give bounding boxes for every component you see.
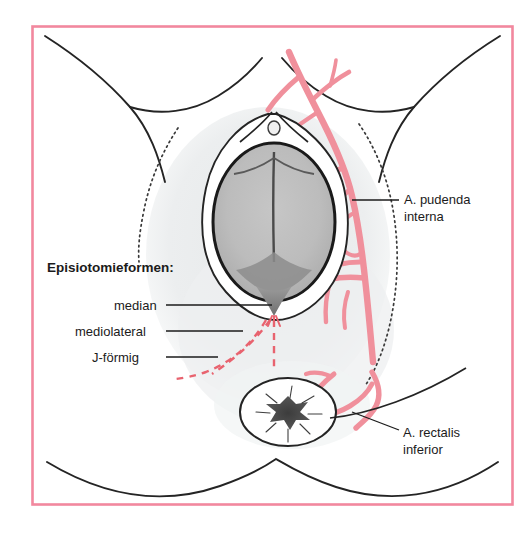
thigh-outline-right [379,36,500,182]
label-a-pudenda-interna-line2: interna [404,208,471,225]
episiotomy-heading: Episiotomieformen: [47,260,174,276]
sagittal-suture [273,152,274,262]
label-a-pudenda-interna: A. pudenda interna [404,191,471,225]
artery-branch-upper-1 [268,76,300,110]
label-episiotomy-j-foermig: J-förmig [92,350,139,366]
figure-root: Episiotomieformen: median mediolateral J… [0,0,529,534]
anus [240,378,336,446]
label-a-rectalis-inferior-line2: inferior [403,441,460,458]
fetal-head [213,143,335,301]
label-episiotomy-median: median [114,298,157,314]
label-a-pudenda-interna-line1: A. pudenda [404,191,471,208]
thigh-outline-left [45,36,165,182]
label-a-rectalis-inferior: A. rectalis inferior [403,424,460,458]
groin-fold-left [130,58,262,112]
clitoris [268,121,280,135]
label-a-rectalis-inferior-line1: A. rectalis [403,424,460,441]
label-episiotomy-mediolateral: mediolateral [75,324,146,340]
buttock-crease [47,459,498,496]
